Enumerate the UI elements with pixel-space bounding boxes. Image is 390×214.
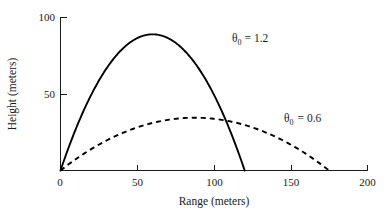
x-tick-label-150: 150	[283, 176, 300, 188]
trajectory-curve-theta-1-2	[61, 34, 245, 170]
y-tick-label-100: 100	[39, 11, 56, 23]
y-axis-ticks	[61, 18, 67, 95]
x-axis-ticks	[138, 165, 368, 171]
chart-canvas: 100 50 0 50 100 150 200 Range (meters) H…	[0, 0, 390, 214]
svg-text:θ0= 1.2: θ0= 1.2	[232, 32, 269, 47]
svg-text:θ0= 0.6: θ0= 0.6	[284, 112, 322, 127]
annotation-theta-value-2: = 0.6	[298, 112, 322, 124]
x-tick-label-0: 0	[57, 176, 63, 188]
x-tick-label-200: 200	[359, 176, 376, 188]
annotation-theta-subscript-1: 0	[238, 38, 242, 47]
y-tick-label-50: 50	[44, 88, 56, 100]
projectile-trajectory-chart: 100 50 0 50 100 150 200 Range (meters) H…	[0, 0, 390, 214]
annotation-theta-value-1: = 1.2	[245, 32, 269, 44]
x-tick-label-50: 50	[132, 176, 144, 188]
annotation-theta-1-2: θ0= 1.2	[232, 32, 269, 47]
x-axis-title: Range (meters)	[179, 195, 250, 208]
x-tick-label-100: 100	[206, 176, 223, 188]
annotation-theta-subscript-2: 0	[290, 118, 294, 127]
y-axis-title: Height (meters)	[6, 58, 19, 131]
annotation-theta-0-6: θ0= 0.6	[284, 112, 322, 127]
